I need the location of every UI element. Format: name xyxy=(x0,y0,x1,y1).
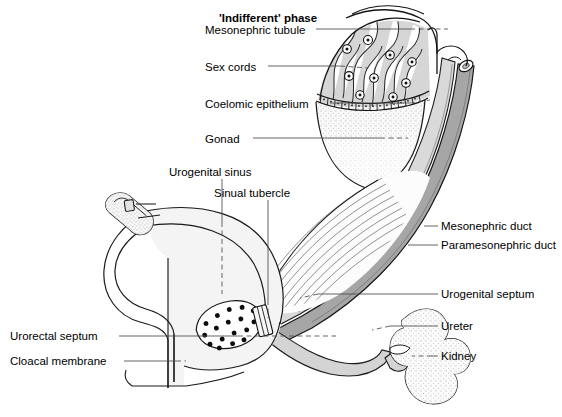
label-cloacal-membrane: Cloacal membrane xyxy=(10,355,107,368)
label-coelomic-epithelium: Coelomic epithelium xyxy=(205,98,309,111)
label-mesonephric-tubule: Mesonephric tubule xyxy=(205,24,305,37)
label-urogenital-septum: Urogenital septum xyxy=(441,288,534,301)
sex-cord-field xyxy=(318,6,437,107)
label-paramesonephric-duct: Paramesonephric duct xyxy=(441,239,556,252)
label-kidney: Kidney xyxy=(441,350,476,363)
label-gonad: Gonad xyxy=(205,133,240,146)
label-ureter: Ureter xyxy=(441,320,473,333)
label-sex-cords: Sex cords xyxy=(205,61,256,74)
label-sinual-tubercle: Sinual tubercle xyxy=(214,187,290,200)
label-urorectal-septum: Urorectal septum xyxy=(10,330,98,343)
urogenital-sinus-body xyxy=(146,207,283,386)
figure-canvas: 'Indifferent' phase Mesonephric tubule S… xyxy=(0,0,562,417)
label-urogenital-sinus: Urogenital sinus xyxy=(169,166,251,179)
label-mesonephric-duct: Mesonephric duct xyxy=(441,220,532,233)
